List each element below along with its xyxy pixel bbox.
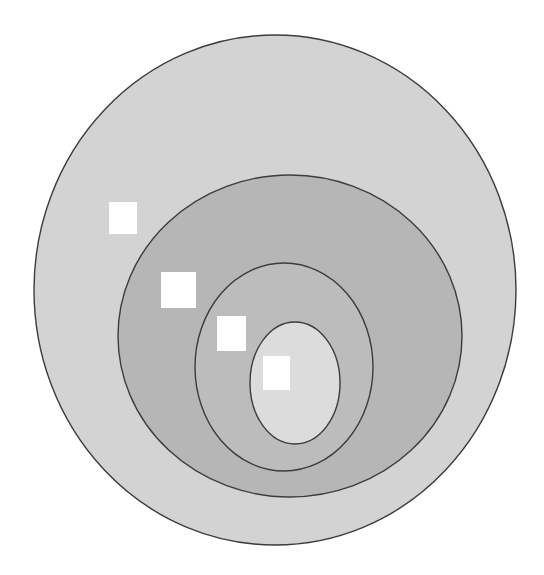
marker-third [217,316,246,351]
ellipse-layers [34,35,516,545]
marker-inner [263,356,290,390]
marker-outer [109,202,137,234]
marker-second [161,272,196,308]
nested-ellipse-diagram [0,0,544,575]
